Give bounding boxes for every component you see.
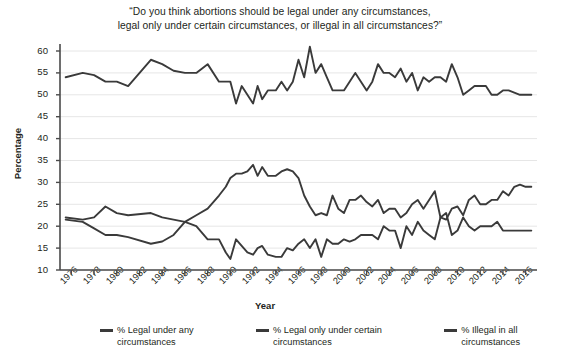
legend-label-line-2: circumstances bbox=[117, 337, 176, 347]
legend-label: % Legal under anycircumstances bbox=[117, 324, 194, 348]
axis-lines bbox=[60, 44, 537, 270]
legend-swatch-icon bbox=[100, 329, 113, 332]
legend-label-line-1: % Legal only under certain bbox=[273, 325, 382, 335]
legend-item-illegal-all[interactable]: % Illegal in allcircumstances bbox=[444, 324, 520, 348]
plot-area bbox=[0, 0, 561, 361]
legend-item-legal-any[interactable]: % Legal under anycircumstances bbox=[100, 324, 194, 348]
chart-container: “Do you think abortions should be legal … bbox=[0, 0, 561, 361]
legend-label-line-1: % Illegal in all bbox=[461, 325, 517, 335]
legend: % Legal under anycircumstances % Legal o… bbox=[100, 324, 520, 348]
legend-label-line-1: % Legal under any bbox=[117, 325, 194, 335]
legend-item-legal-certain[interactable]: % Legal only under certaincircumstances bbox=[256, 324, 382, 348]
legend-swatch-icon bbox=[256, 329, 269, 332]
legend-label: % Legal only under certaincircumstances bbox=[273, 324, 382, 348]
legend-label: % Illegal in allcircumstances bbox=[461, 324, 520, 348]
data-series-layer bbox=[66, 47, 532, 259]
legend-label-line-2: circumstances bbox=[273, 337, 332, 347]
legend-swatch-icon bbox=[444, 329, 457, 332]
series-line-3 bbox=[66, 206, 532, 259]
legend-label-line-2: circumstances bbox=[461, 337, 520, 347]
